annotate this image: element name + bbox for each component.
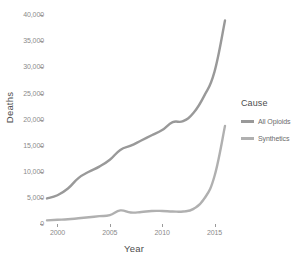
y-tick-label: 15,000 [0,142,44,149]
y-tick-label: 35,000 [0,37,44,44]
legend: Cause All OpioidsSynthetics [241,98,297,148]
y-tick-mark [40,198,43,199]
y-tick-label: 25,000 [0,90,44,97]
y-tick-label: 40,000 [0,11,44,18]
plot-lines [47,10,225,224]
x-tick-label: 2015 [195,229,235,236]
x-axis-title: Year [44,243,224,254]
chart-root: Deaths 05,00010,00015,00020,00025,00030,… [0,0,297,260]
y-tick-label: 5,000 [0,194,44,201]
y-tick-label: 30,000 [0,63,44,70]
series-line [47,126,225,220]
y-tick-mark [40,15,43,16]
y-tick-mark [40,41,43,42]
legend-item-label: All Opioids [258,118,290,125]
y-tick-mark [40,146,43,147]
plot-panel [47,10,225,224]
series-line [47,20,225,198]
x-tick-mark [57,224,58,227]
y-tick-mark [40,120,43,121]
y-tick-mark [40,67,43,68]
y-tick-label: 10,000 [0,168,44,175]
legend-item-label: Synthetics [258,135,289,142]
legend-items: All OpioidsSynthetics [241,114,297,145]
x-tick-mark [110,224,111,227]
x-tick-label: 2005 [90,229,130,236]
legend-item[interactable]: All Opioids [241,114,297,128]
legend-key-swatch [241,137,254,140]
x-tick-label: 2010 [142,229,182,236]
legend-item[interactable]: Synthetics [241,131,297,145]
y-tick-mark [40,224,43,225]
x-tick-mark [162,224,163,227]
legend-key-swatch [241,120,254,123]
y-tick-mark [40,172,43,173]
y-axis-ticks: 05,00010,00015,00020,00025,00030,00035,0… [0,0,44,260]
y-tick-label: 20,000 [0,116,44,123]
x-tick-label: 2000 [37,229,77,236]
y-tick-label: 0 [0,220,44,227]
legend-title: Cause [241,98,297,108]
x-tick-mark [215,224,216,227]
y-tick-mark [40,94,43,95]
